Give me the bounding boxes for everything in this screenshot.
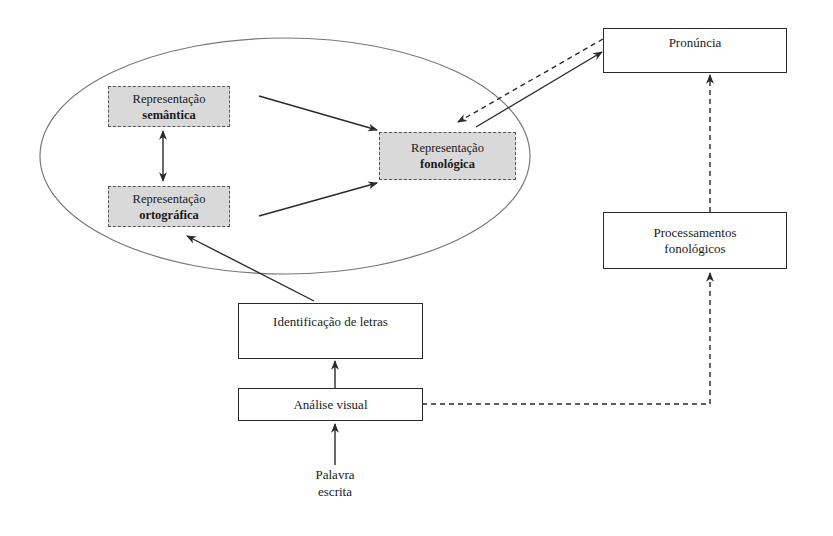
node-label: Pronúncia bbox=[669, 35, 722, 51]
node-identificacao-de-letras: Identificação de letras bbox=[238, 303, 423, 359]
node-representacao-fonologica: Representação fonológica bbox=[379, 132, 516, 180]
arrow-semantica-fonologica bbox=[259, 96, 377, 130]
arrow-identificacao-ortografica bbox=[187, 236, 314, 301]
node-line2: ortográfica bbox=[139, 207, 199, 223]
node-representacao-semantica: Representação semântica bbox=[108, 86, 230, 127]
label-line2: escrita bbox=[295, 483, 375, 500]
node-line1: Representação bbox=[133, 91, 206, 107]
node-line1: Processamentos bbox=[653, 225, 736, 241]
node-representacao-ortografica: Representação ortográfica bbox=[108, 186, 230, 227]
node-label: Identificação de letras bbox=[273, 314, 388, 330]
node-processamentos-fonologicos: Processamentos fonológicos bbox=[603, 212, 787, 269]
arrow-ortografica-fonologica bbox=[259, 183, 377, 216]
arrow-analise-processamentos-dashed bbox=[422, 273, 710, 404]
node-pronuncia: Pronúncia bbox=[603, 28, 787, 73]
input-palavra-escrita: Palavra escrita bbox=[295, 466, 375, 500]
label-line1: Palavra bbox=[295, 466, 375, 483]
node-label: Análise visual bbox=[293, 397, 367, 413]
node-line1: Representação bbox=[411, 140, 484, 156]
arrow-fonologica-pronuncia bbox=[476, 52, 602, 127]
node-line1: Representação bbox=[133, 191, 206, 207]
node-line2: fonológicos bbox=[664, 241, 725, 257]
node-analise-visual: Análise visual bbox=[238, 388, 423, 421]
arrow-pronuncia-fonologica-dashed bbox=[458, 39, 603, 122]
node-line2: semântica bbox=[142, 107, 195, 123]
node-line2: fonológica bbox=[420, 156, 475, 172]
